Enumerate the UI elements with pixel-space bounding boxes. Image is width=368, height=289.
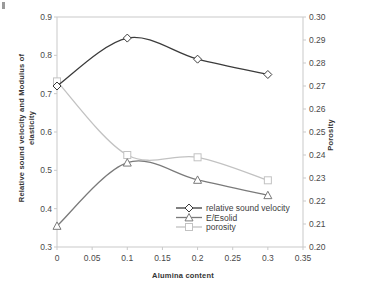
y-axis-right-tick: 0.28	[309, 58, 335, 68]
y-axis-left-tick: 0.6	[28, 127, 52, 137]
y-axis-right-tick: 0.23	[309, 173, 335, 183]
y-axis-right-tick: 0.25	[309, 127, 335, 137]
legend-item-label: porosity	[206, 222, 236, 232]
y-axis-right-tick: 0.24	[309, 150, 335, 160]
x-axis-tick: 0.15	[147, 253, 177, 263]
series-layer	[53, 34, 272, 229]
y-axis-right-tick: 0.22	[309, 196, 335, 206]
y-axis-right-tick: 0.20	[309, 242, 335, 252]
y-axis-left-tick: 0.5	[28, 165, 52, 175]
y-axis-right-tick: 0.30	[309, 12, 335, 22]
legend-sample-lines	[176, 204, 202, 231]
y-axis-right-tick: 0.21	[309, 219, 335, 229]
x-axis-tick: 0.1	[112, 253, 142, 263]
y-axis-left-tick: 0.9	[28, 12, 52, 22]
y-axis-right-tick: 0.27	[309, 81, 335, 91]
series-1	[53, 34, 272, 90]
y-axis-left-tick: 0.7	[28, 89, 52, 99]
chart-figure: Relative sound velocity and Modulus of e…	[0, 0, 368, 289]
y-axis-left-tick: 0.3	[28, 242, 52, 252]
x-axis-tick: 0.05	[77, 253, 107, 263]
y-axis-right-tick: 0.29	[309, 35, 335, 45]
x-axis-tick: 0.35	[288, 253, 318, 263]
x-axis-tick: 0.2	[183, 253, 213, 263]
y-axis-left-tick: 0.4	[28, 204, 52, 214]
y-axis-left-tick: 0.8	[28, 50, 52, 60]
x-axis-tick: 0.25	[218, 253, 248, 263]
legend-item-label: relative sound velocity	[206, 203, 290, 213]
y-axis-right-tick: 0.26	[309, 104, 335, 114]
series-3	[54, 78, 272, 184]
x-axis-tick: 0	[42, 253, 72, 263]
legend-item-label: E/Esolid	[206, 213, 237, 223]
x-axis-tick: 0.3	[253, 253, 283, 263]
